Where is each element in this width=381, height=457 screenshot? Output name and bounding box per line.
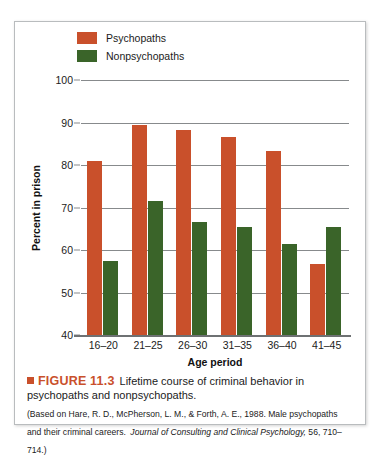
legend-label-nonpsychopaths: Nonpsychopaths	[106, 50, 184, 62]
bar-nonpsychopaths-36–40	[282, 244, 297, 335]
y-tick-label-100: 100	[55, 74, 73, 86]
y-tick-dash-60	[74, 250, 80, 251]
bar-nonpsychopaths-41–45	[326, 227, 341, 335]
y-tick-label-80: 80	[61, 159, 73, 171]
figure-caption: FIGURE 11.3Lifetime course of criminal b…	[27, 375, 353, 457]
bar-groups: 16–2021–2526–3031–3536–4041–45	[81, 80, 349, 335]
caption-main: FIGURE 11.3Lifetime course of criminal b…	[27, 375, 353, 402]
figure-card: Psychopaths Nonpsychopaths Percent in pr…	[14, 21, 366, 425]
y-tick-label-60: 60	[61, 244, 73, 256]
caption-bullet-icon	[27, 377, 34, 384]
y-tick-label-90: 90	[61, 117, 73, 129]
x-tick-label-36–40: 36–40	[260, 339, 305, 351]
legend-item-psychopaths: Psychopaths	[77, 31, 184, 44]
y-tick-label-40: 40	[61, 329, 73, 341]
x-axis-line	[74, 335, 351, 337]
bar-psychopaths-31–35	[221, 137, 236, 335]
y-axis-title: Percent in prison	[29, 80, 43, 335]
y-tick-label-70: 70	[61, 202, 73, 214]
caption-source: (Based on Hare, R. D., McPherson, L. M.,…	[27, 403, 353, 457]
x-tick-label-26–30: 26–30	[170, 339, 215, 351]
caption-figure-number: FIGURE 11.3	[38, 374, 115, 388]
x-tick-label-41–45: 41–45	[304, 339, 349, 351]
y-tick-label-50: 50	[61, 287, 73, 299]
bar-psychopaths-26–30	[176, 130, 191, 335]
bar-psychopaths-36–40	[266, 151, 281, 335]
bar-psychopaths-41–45	[310, 264, 325, 335]
y-tick-dash-90	[74, 122, 80, 123]
plot-area: 100908070605040 16–2021–2526–3031–3536–4…	[81, 80, 349, 335]
bar-group: 26–30	[170, 80, 215, 335]
bar-group: 31–35	[215, 80, 260, 335]
y-tick-dash-70	[74, 207, 80, 208]
x-tick-label-16–20: 16–20	[81, 339, 126, 351]
chart-legend: Psychopaths Nonpsychopaths	[77, 31, 184, 62]
bar-nonpsychopaths-21–25	[148, 201, 163, 335]
legend-swatch-nonpsychopaths	[77, 50, 97, 62]
bar-group: 41–45	[304, 80, 349, 335]
y-tick-dash-100	[74, 80, 80, 81]
legend-label-psychopaths: Psychopaths	[106, 32, 166, 44]
x-axis-title: Age period	[81, 356, 349, 368]
bar-psychopaths-21–25	[132, 125, 147, 335]
caption-journal-name: Journal of Consulting and Clinical Psych…	[130, 427, 306, 437]
bar-group: 16–20	[81, 80, 126, 335]
x-tick-label-31–35: 31–35	[215, 339, 260, 351]
bar-group: 21–25	[126, 80, 171, 335]
y-tick-dash-50	[74, 292, 80, 293]
y-tick-dash-80	[74, 165, 80, 166]
bar-nonpsychopaths-16–20	[103, 261, 118, 335]
bar-psychopaths-16–20	[87, 161, 102, 335]
bar-nonpsychopaths-26–30	[192, 222, 207, 335]
x-tick-label-21–25: 21–25	[126, 339, 171, 351]
y-axis-title-text: Percent in prison	[30, 165, 42, 251]
legend-swatch-psychopaths	[77, 32, 97, 44]
legend-item-nonpsychopaths: Nonpsychopaths	[77, 49, 184, 62]
bar-group: 36–40	[260, 80, 305, 335]
bar-nonpsychopaths-31–35	[237, 227, 252, 335]
